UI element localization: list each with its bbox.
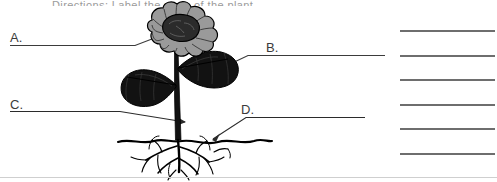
answer-line-1[interactable] bbox=[400, 30, 495, 32]
answer-line-3[interactable] bbox=[400, 79, 495, 81]
flower-icon bbox=[148, 2, 218, 57]
label-letter-d: D. bbox=[241, 103, 254, 116]
answer-line-5[interactable] bbox=[400, 128, 495, 130]
label-letter-b: B. bbox=[266, 41, 278, 54]
soil-line-icon bbox=[118, 140, 272, 143]
leader-line-b bbox=[228, 56, 385, 66]
worksheet-page: Directions: Label the parts of the plant… bbox=[0, 0, 497, 182]
label-letter-c: C. bbox=[10, 98, 23, 111]
leader-line-d bbox=[213, 118, 365, 140]
page-bottom-rule bbox=[0, 177, 497, 178]
answer-line-6[interactable] bbox=[400, 153, 495, 155]
leaf-icon-right bbox=[178, 51, 238, 88]
answer-line-4[interactable] bbox=[400, 104, 495, 106]
label-letter-a: A. bbox=[10, 31, 22, 44]
leader-line-a bbox=[10, 34, 165, 46]
leaf-icon-left bbox=[121, 70, 176, 107]
leader-line-c bbox=[10, 112, 185, 123]
answer-line-2[interactable] bbox=[400, 55, 495, 57]
